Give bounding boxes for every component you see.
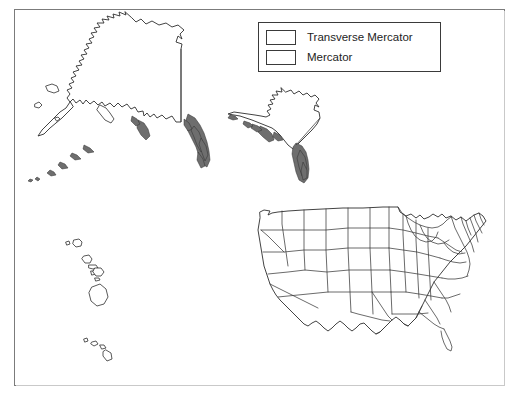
map-alaska-mercator [26,12,236,202]
map-conus-mercator [248,200,498,355]
legend-label-mercator: Mercator [307,51,352,63]
legend-item-mercator: Mercator [266,47,440,67]
legend-item-transverse-mercator: Transverse Mercator [266,27,440,47]
legend-label-transverse-mercator: Transverse Mercator [307,31,413,43]
projection-comparison-figure: Transverse Mercator Mercator [0,0,515,398]
map-hawaii-mercator [48,232,156,370]
legend-swatch-transverse-mercator [266,30,296,45]
map-alaska-transverse-mercator [224,88,339,193]
legend: Transverse Mercator Mercator [258,22,441,72]
legend-swatch-mercator [266,50,296,65]
